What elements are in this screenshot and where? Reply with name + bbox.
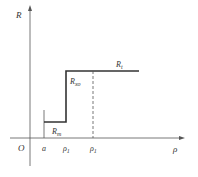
- label-rt: Rt: [115, 60, 123, 70]
- y-axis-label: R: [15, 10, 22, 20]
- label-rxo: Rxo: [69, 77, 81, 87]
- tick-rho2: ρ1: [89, 144, 97, 154]
- step-curve: [44, 71, 139, 122]
- label-rm: Rm: [51, 127, 62, 137]
- tick-rho1: ρ1: [62, 144, 70, 154]
- origin-label: O: [18, 143, 25, 153]
- tick-a: a: [42, 144, 46, 153]
- x-axis-arrow-icon: [179, 136, 185, 140]
- x-axis-label: ρ: [172, 144, 178, 154]
- y-axis-arrow-icon: [28, 5, 32, 11]
- resistivity-step-diagram: R ρ O a ρ1 ρ1 Rm Rxo Rt: [0, 0, 198, 177]
